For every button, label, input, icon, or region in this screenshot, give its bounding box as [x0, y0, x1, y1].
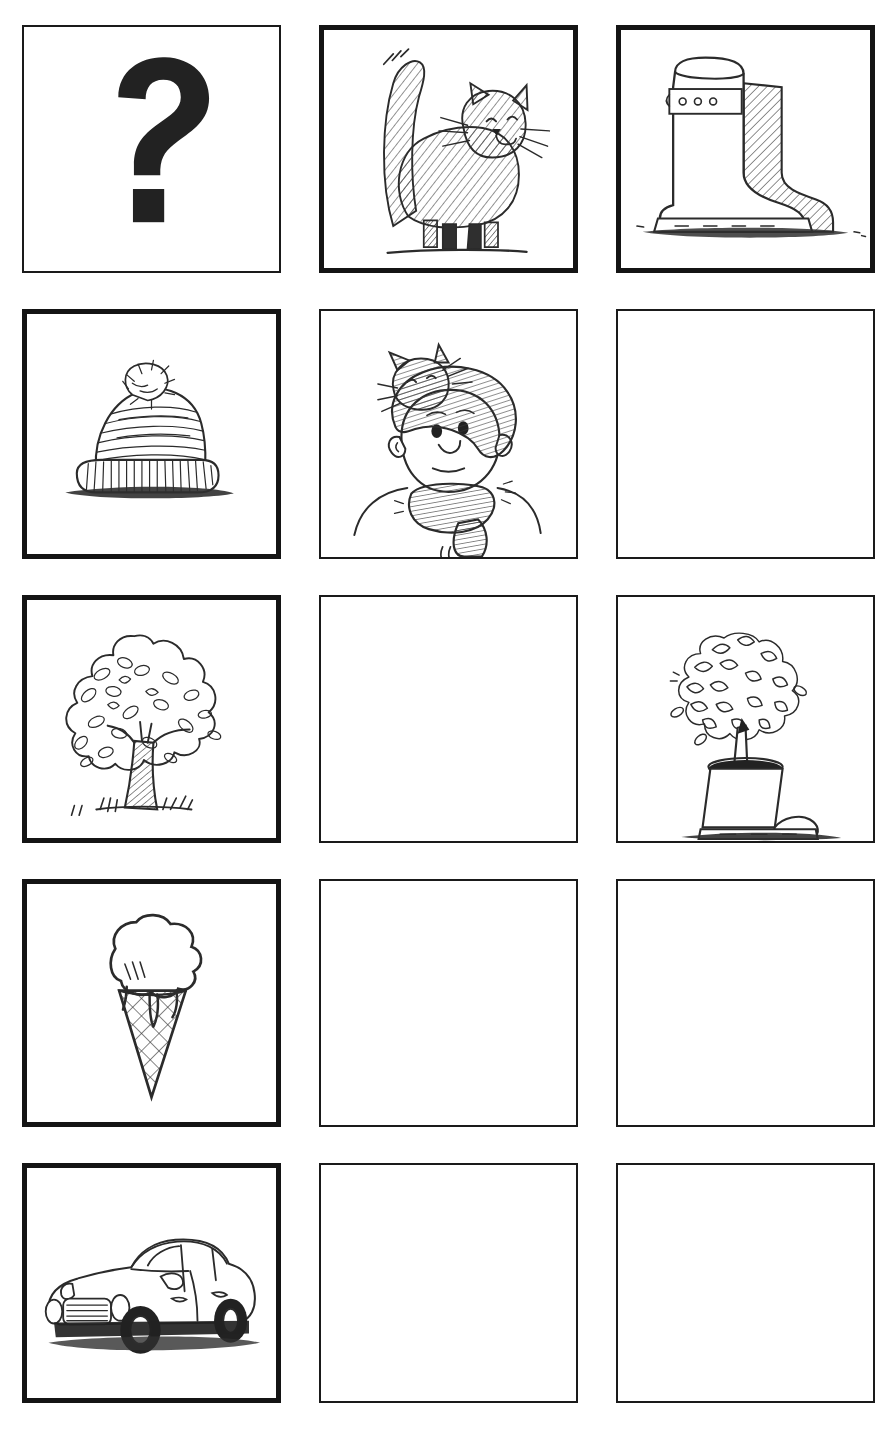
- cell-cat[interactable]: [319, 25, 578, 273]
- cell-boot-planter[interactable]: [616, 595, 875, 843]
- car-sketch-icon: [27, 1168, 276, 1398]
- question-mark-icon: [24, 27, 279, 271]
- boot-planter-sketch-icon: [618, 597, 873, 841]
- cell-rubber-boots-pair[interactable]: [616, 25, 875, 273]
- tree-sketch-icon: [27, 600, 276, 838]
- cell-blank-r4c2[interactable]: [319, 879, 578, 1127]
- cell-person-wearing-cat-hat[interactable]: [319, 309, 578, 559]
- cell-blank-r3c2[interactable]: [319, 595, 578, 843]
- cell-tree[interactable]: [22, 595, 281, 843]
- cat-sketch-icon: [324, 30, 573, 268]
- cell-bobble-hat[interactable]: [22, 309, 281, 559]
- bobble-hat-sketch-icon: [27, 314, 276, 554]
- person-with-cat-hat-sketch-icon: [321, 311, 576, 557]
- cell-blank-r5c3[interactable]: [616, 1163, 875, 1403]
- cell-car[interactable]: [22, 1163, 281, 1403]
- ice-cream-cone-sketch-icon: [27, 884, 276, 1122]
- rubber-boots-sketch-icon: [621, 30, 870, 268]
- cell-ice-cream-cone[interactable]: [22, 879, 281, 1127]
- picture-grid: [22, 25, 875, 1403]
- cell-blank-r5c2[interactable]: [319, 1163, 578, 1403]
- cell-blank-r2c3[interactable]: [616, 309, 875, 559]
- cell-blank-r4c3[interactable]: [616, 879, 875, 1127]
- cell-question-mark[interactable]: [22, 25, 281, 273]
- worksheet-sheet: [0, 0, 891, 1439]
